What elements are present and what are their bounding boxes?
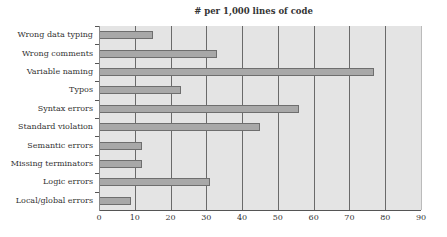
- x-tick-label: 80: [375, 213, 395, 222]
- y-tick: [95, 136, 99, 137]
- y-tick: [95, 26, 99, 27]
- x-tick-label: 30: [196, 213, 216, 222]
- bar: [99, 68, 374, 76]
- category-label: Wrong comments: [22, 49, 93, 59]
- bar: [99, 105, 299, 113]
- y-tick: [95, 118, 99, 119]
- y-tick: [95, 44, 99, 45]
- x-tick-label: 50: [268, 213, 288, 222]
- category-label: Standard violation: [18, 122, 93, 132]
- bar: [99, 50, 217, 58]
- x-tick-label: 70: [339, 213, 359, 222]
- bar: [99, 197, 131, 205]
- category-label: Local/global errors: [16, 196, 93, 206]
- bar: [99, 86, 181, 94]
- bar: [99, 123, 260, 131]
- category-label: Missing terminators: [11, 159, 93, 169]
- plot-area: [99, 26, 421, 211]
- bar: [99, 142, 142, 150]
- gridline: [421, 26, 422, 210]
- category-label: Semantic errors: [27, 141, 93, 151]
- y-tick: [95, 155, 99, 156]
- x-tick-label: 10: [125, 213, 145, 222]
- gridline: [278, 26, 279, 210]
- gridline: [242, 26, 243, 210]
- y-tick: [95, 81, 99, 82]
- y-axis: [99, 26, 100, 211]
- y-tick: [95, 100, 99, 101]
- x-tick-label: 0: [89, 213, 109, 222]
- x-tick-label: 90: [411, 213, 431, 222]
- chart-title: # per 1,000 lines of code: [0, 6, 447, 16]
- gridline: [385, 26, 386, 210]
- gridline: [349, 26, 350, 210]
- x-tick-label: 60: [304, 213, 324, 222]
- bar: [99, 31, 153, 39]
- y-tick: [95, 63, 99, 64]
- x-tick-label: 40: [232, 213, 252, 222]
- x-tick-label: 20: [161, 213, 181, 222]
- y-tick: [95, 192, 99, 193]
- category-label: Variable naming: [27, 67, 93, 77]
- y-tick: [95, 173, 99, 174]
- bar: [99, 178, 210, 186]
- category-label: Logic errors: [43, 177, 93, 187]
- gridline: [314, 26, 315, 210]
- category-label: Wrong data typing: [18, 30, 93, 40]
- category-label: Typos: [69, 85, 93, 95]
- bar: [99, 160, 142, 168]
- category-label: Syntax errors: [38, 104, 93, 114]
